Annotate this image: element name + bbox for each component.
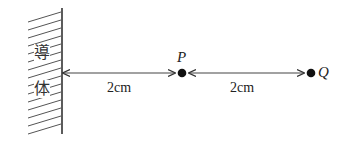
distance-label-p-q: 2cm xyxy=(230,80,254,96)
conductor-label-char-1: 導 xyxy=(34,44,50,62)
diagram-canvas xyxy=(0,0,341,142)
point-p-label: P xyxy=(177,49,186,66)
conductor-label-char-2: 体 xyxy=(34,80,50,98)
conductor-hatching xyxy=(28,12,61,134)
point-p xyxy=(178,69,187,78)
distance-label-conductor-p: 2cm xyxy=(107,80,131,96)
point-q xyxy=(307,69,316,78)
point-q-label: Q xyxy=(318,64,329,81)
